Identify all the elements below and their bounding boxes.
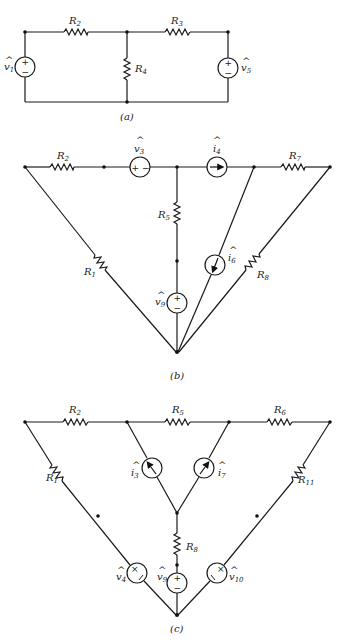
resistor-r8: [174, 533, 180, 555]
cross-sign: ×: [131, 564, 139, 574]
resistor-r8: [245, 254, 260, 270]
plus-sign: +: [22, 57, 30, 67]
label-r2: R2: [68, 404, 82, 417]
circuit-figure: + − + − R2 R3 R4 ^ v1 ^ v5 (a) + −: [0, 0, 347, 644]
wire: [209, 422, 229, 458]
wire: [224, 481, 293, 565]
wire: [219, 167, 254, 255]
resistor-r2: [50, 164, 74, 170]
caption-b: (b): [170, 370, 184, 381]
minus-sign: −: [174, 303, 182, 313]
label-r7: R7: [288, 150, 302, 163]
plus-sign: +: [174, 293, 182, 303]
wire: [25, 422, 52, 465]
wire: [127, 422, 147, 458]
wire: [178, 275, 211, 352]
label-r5: R5: [157, 209, 171, 222]
label-r3: R3: [170, 15, 184, 28]
resistor-r2: [63, 419, 88, 425]
wire: [25, 167, 95, 255]
panel-b: + − + − R2 ^ v3 ^: [23, 134, 332, 381]
minus-sign: −: [22, 67, 30, 77]
label-r2: R2: [68, 15, 82, 28]
wire: [177, 477, 199, 513]
panel-a: + − + − R2 R3 R4 ^ v1 ^ v5 (a): [4, 15, 252, 122]
plus-sign: +: [225, 58, 233, 68]
wire: [303, 422, 330, 465]
label-r4: R4: [134, 63, 147, 76]
resistor-r7: [281, 164, 305, 170]
label-r6: R6: [273, 404, 287, 417]
label-r11: R11: [297, 474, 314, 487]
resistor-r1: [94, 255, 107, 270]
plus-sign: +: [132, 163, 140, 173]
resistor-r5: [165, 419, 190, 425]
wire: [157, 477, 177, 513]
resistor-r2: [64, 29, 88, 35]
caption-c: (c): [170, 623, 184, 634]
label-r8: R8: [185, 541, 199, 554]
plus-sign: +: [174, 573, 182, 583]
resistor-r5: [174, 202, 180, 224]
wire: [179, 270, 246, 352]
minus-sign: −: [142, 163, 150, 173]
panel-c: × + − ×: [23, 404, 332, 634]
cross-sign: ×: [217, 564, 225, 574]
label-r5: R5: [171, 404, 185, 417]
caption-a: (a): [120, 111, 134, 122]
wire: [259, 167, 330, 254]
minus-sign: −: [174, 583, 182, 593]
wire: [62, 481, 130, 565]
label-r1: R1: [83, 266, 96, 279]
label-r2: R2: [56, 150, 70, 163]
wire: [105, 270, 176, 352]
resistor-r4: [124, 58, 130, 80]
minus-sign: −: [225, 68, 233, 78]
label-r8: R8: [256, 269, 270, 282]
resistor-r3: [165, 29, 190, 35]
label-r1: R1: [45, 472, 58, 485]
resistor-r6: [267, 419, 292, 425]
